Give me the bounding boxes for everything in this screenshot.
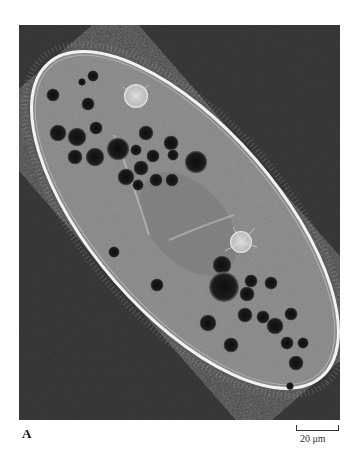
- paramecium-illustration: [19, 25, 340, 420]
- scale-bar-label: 20 μm: [300, 433, 326, 444]
- scale-bar: [296, 425, 339, 431]
- panel-label: A: [22, 426, 31, 442]
- micrograph-image: [19, 25, 340, 420]
